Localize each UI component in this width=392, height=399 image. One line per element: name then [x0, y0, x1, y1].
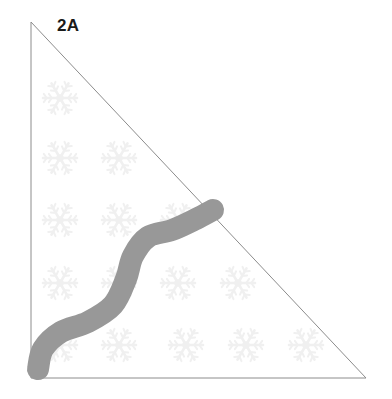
panel-label: 2A	[57, 17, 79, 34]
figure-canvas: 2A	[0, 0, 392, 399]
figure-svg	[0, 0, 392, 399]
